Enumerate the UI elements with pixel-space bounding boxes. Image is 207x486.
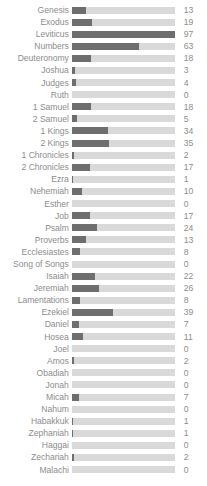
bar-label: Zephaniah: [0, 427, 69, 439]
bar-label: Haggai: [0, 439, 69, 451]
bar-label: Ezra: [0, 173, 69, 185]
bar-track: [72, 103, 175, 110]
bar-track: [72, 67, 175, 74]
bar-label: Joel: [0, 343, 69, 355]
bar-label: 1 Kings: [0, 125, 69, 137]
bar-label: Daniel: [0, 318, 69, 330]
bar-track: [72, 152, 175, 159]
bar-row: Proverbs13: [0, 234, 207, 246]
bar-label: Ruth: [0, 89, 69, 101]
bar-fill: [72, 55, 91, 62]
bar-label: 1 Chronicles: [0, 149, 69, 161]
bar-value: 19: [184, 16, 207, 28]
bar-track: [72, 200, 175, 207]
bar-label: Zechariah: [0, 451, 69, 463]
bar-row: Jeremiah26: [0, 282, 207, 294]
bar-value: 5: [184, 113, 207, 125]
bar-value: 1: [184, 173, 207, 185]
bar-value: 2: [184, 149, 207, 161]
bar-fill: [72, 236, 86, 243]
bar-fill: [72, 333, 84, 340]
bar-label: 2 Chronicles: [0, 161, 69, 173]
bar-value: 0: [184, 198, 207, 210]
bar-row: Zephaniah1: [0, 427, 207, 439]
bar-value: 4: [184, 77, 207, 89]
bar-label: 2 Samuel: [0, 113, 69, 125]
horizontal-bar-chart: Genesis13Exodus19Leviticus97Numbers63Deu…: [0, 0, 207, 476]
bar-row: Isaiah22: [0, 270, 207, 282]
bar-fill: [72, 188, 83, 195]
bar-row: Ecclesiastes8: [0, 246, 207, 258]
bar-label: Esther: [0, 198, 69, 210]
bar-track: [72, 236, 175, 243]
bar-value: 8: [184, 246, 207, 258]
bar-fill: [72, 31, 175, 38]
bar-value: 39: [184, 306, 207, 318]
bar-fill: [72, 454, 74, 461]
bar-value: 0: [184, 379, 207, 391]
bar-track: [72, 406, 175, 413]
bar-track: [72, 188, 175, 195]
bar-label: Jeremiah: [0, 282, 69, 294]
bar-value: 7: [184, 318, 207, 330]
bar-value: 0: [184, 367, 207, 379]
bar-track: [72, 91, 175, 98]
bar-fill: [72, 297, 80, 304]
bar-fill: [72, 273, 95, 280]
bar-label: Song of Songs: [0, 258, 69, 270]
bar-track: [72, 79, 175, 86]
bar-row: Zechariah2: [0, 451, 207, 463]
bar-fill: [72, 115, 77, 122]
bar-row: Psalm24: [0, 222, 207, 234]
bar-fill: [72, 357, 74, 364]
bar-row: Jonah0: [0, 379, 207, 391]
bar-fill: [72, 212, 90, 219]
bar-row: Joshua3: [0, 64, 207, 76]
bar-track: [72, 442, 175, 449]
bar-row: 2 Kings35: [0, 137, 207, 149]
bar-fill: [72, 67, 75, 74]
bar-row: Genesis13: [0, 4, 207, 16]
bar-label: Proverbs: [0, 234, 69, 246]
bar-row: Obadiah0: [0, 367, 207, 379]
bar-fill: [72, 321, 79, 328]
bar-track: [72, 115, 175, 122]
bar-row: 2 Chronicles17: [0, 161, 207, 173]
bar-track: [72, 31, 175, 38]
bar-fill: [72, 152, 74, 159]
bar-fill: [72, 224, 97, 231]
bar-row: Joel0: [0, 343, 207, 355]
bar-row: Leviticus97: [0, 28, 207, 40]
bar-value: 97: [184, 28, 207, 40]
bar-row: Nahum0: [0, 403, 207, 415]
bar-track: [72, 454, 175, 461]
bar-track: [72, 394, 175, 401]
bar-track: [72, 430, 175, 437]
bar-row: Ezra1: [0, 173, 207, 185]
bar-value: 1: [184, 427, 207, 439]
bar-row: 1 Kings34: [0, 125, 207, 137]
bar-label: Isaiah: [0, 270, 69, 282]
bar-label: Joshua: [0, 64, 69, 76]
bar-label: Numbers: [0, 40, 69, 52]
bar-row: Ezekiel39: [0, 306, 207, 318]
bar-value: 35: [184, 137, 207, 149]
bar-label: Deuteronomy: [0, 52, 69, 64]
bar-row: 1 Samuel18: [0, 101, 207, 113]
bar-label: Hosea: [0, 331, 69, 343]
bar-track: [72, 7, 175, 14]
bar-value: 26: [184, 282, 207, 294]
bar-label: Psalm: [0, 222, 69, 234]
bar-track: [72, 261, 175, 268]
bar-track: [72, 369, 175, 376]
bar-track: [72, 164, 175, 171]
bar-row: Song of Songs0: [0, 258, 207, 270]
bar-row: Esther0: [0, 198, 207, 210]
bar-fill: [72, 19, 92, 26]
bar-label: Ezekiel: [0, 306, 69, 318]
bar-row: Daniel7: [0, 318, 207, 330]
bar-value: 0: [184, 439, 207, 451]
bar-label: Micah: [0, 391, 69, 403]
bar-label: Lamentations: [0, 294, 69, 306]
bar-label: Jonah: [0, 379, 69, 391]
